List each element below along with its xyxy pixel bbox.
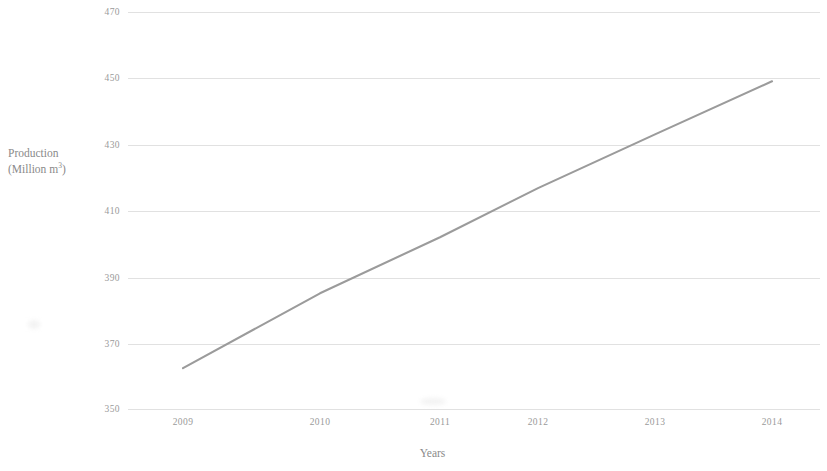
y-tick-label: 370	[74, 339, 120, 349]
x-tick-label: 2014	[742, 416, 802, 428]
y-tick-label: 470	[74, 7, 120, 17]
x-axis-ticks: 2009 2010 2011 2012 2013 2014	[128, 416, 820, 432]
x-axis-title-label: Years	[420, 447, 446, 459]
y-axis-title-unit-prefix: (Million m	[8, 163, 58, 175]
series-line	[128, 12, 820, 410]
line-chart: 470 450 430 410 390 370 350 2009 2010 20…	[0, 0, 827, 471]
x-tick-label: 2013	[625, 416, 685, 428]
y-tick-label: 390	[74, 273, 120, 283]
y-axis-ticks: 470 450 430 410 390 370 350	[74, 12, 120, 410]
y-tick-label: 450	[74, 73, 120, 83]
y-axis-title-line1: Production	[8, 147, 58, 159]
x-tick-label: 2012	[508, 416, 568, 428]
x-axis-title: Years	[0, 446, 827, 460]
x-tick-label: 2010	[290, 416, 350, 428]
y-tick-label: 350	[74, 404, 120, 414]
y-axis-title-unit-suffix: )	[62, 163, 66, 175]
scan-artifact	[28, 320, 40, 329]
y-axis-title: Production (Million m3)	[8, 145, 118, 177]
y-axis-title-line2: (Million m3)	[8, 161, 118, 177]
x-tick-label: 2011	[410, 416, 470, 428]
x-tick-label: 2009	[153, 416, 213, 428]
plot-area	[128, 12, 820, 410]
y-tick-label: 410	[74, 206, 120, 216]
